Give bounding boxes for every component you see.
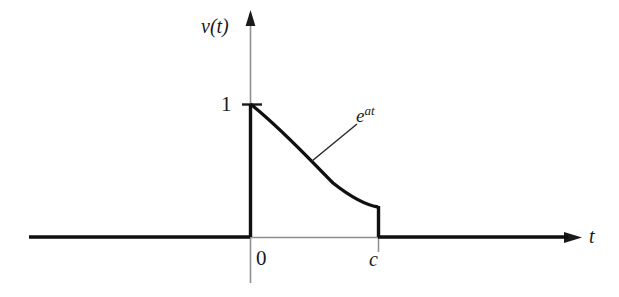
x-axis-label: t bbox=[589, 226, 595, 246]
y-axis-label: v(t) bbox=[201, 16, 229, 36]
figure-canvas bbox=[0, 0, 619, 297]
x-tick-label-cutoff: c bbox=[369, 249, 378, 269]
curve-label-exponent: at bbox=[364, 103, 374, 118]
y-axis-arrowhead bbox=[246, 10, 256, 26]
exponential-pulse-figure: v(t) t 1 0 c eat bbox=[0, 0, 619, 297]
x-tick-label-origin: 0 bbox=[256, 248, 267, 269]
curve-label-leader-line bbox=[312, 124, 357, 161]
curve-label-exponential: eat bbox=[356, 104, 375, 125]
y-tick-label-one: 1 bbox=[221, 94, 232, 115]
